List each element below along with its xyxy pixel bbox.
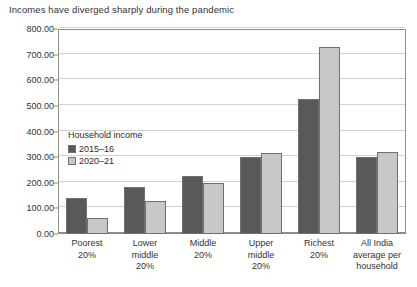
legend-label-2020-21: 2020–21 [79,155,114,167]
legend-item-2015-16: 2015–16 [68,143,143,155]
bar-group [298,29,340,234]
bar-2015-16-2 [182,176,203,234]
bar-2020-21-0 [87,218,108,234]
bar-group [356,29,398,234]
legend-label-2015-16: 2015–16 [79,143,114,155]
y-tick-label-100: 100.00 [26,203,54,213]
y-tick-label-700: 700.00 [26,50,54,60]
bar-2020-21-2 [203,183,224,234]
y-tick-label-400: 400.00 [26,127,54,137]
bar-2015-16-4 [298,99,319,234]
bar-2015-16-1 [124,187,145,234]
legend-item-2020-21: 2020–21 [68,155,143,167]
bar-2015-16-0 [66,198,87,234]
x-axis-label-4: Richest20% [290,238,348,261]
bar-2020-21-4 [319,47,340,234]
legend-swatch-2015-16 [68,145,76,153]
chart-page: Incomes have diverged sharply during the… [0,0,417,287]
bar-2020-21-3 [261,153,282,234]
y-tick-label-800: 800.00 [26,24,54,34]
y-tick-label-200: 200.00 [26,178,54,188]
x-axis-label-3: Uppermiddle20% [232,238,290,273]
y-tick-label-600: 600.00 [26,75,54,85]
bar-2020-21-5 [377,152,398,234]
y-tick-label-0: 0.00 [36,229,54,239]
chart-title: Incomes have diverged sharply during the… [9,4,234,15]
legend-swatch-2020-21 [68,157,76,165]
bar-2020-21-1 [145,201,166,234]
legend-title: Household income [68,129,143,141]
x-axis-labels: Poorest20%Lowermiddle20%Middle20%Uppermi… [58,238,406,284]
gridline-800 [59,27,405,28]
x-axis-label-1: Lowermiddle20% [116,238,174,273]
bar-2015-16-3 [240,157,261,234]
y-tick-label-300: 300.00 [26,152,54,162]
y-axis: 800.00700.00600.00500.00400.00300.00200.… [0,29,54,234]
legend: Household income 2015–16 2020–21 [68,129,143,167]
bar-group [182,29,224,234]
x-axis-label-5: All Indiaaverage perhousehold [348,238,406,273]
y-tick-label-500: 500.00 [26,101,54,111]
x-axis-label-0: Poorest20% [58,238,116,261]
bar-2015-16-5 [356,157,377,234]
bar-group [240,29,282,234]
x-axis-label-2: Middle20% [174,238,232,261]
